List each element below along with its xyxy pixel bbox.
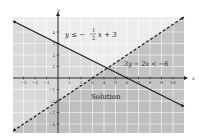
x-axis-label: x [192,75,195,81]
equation-2-label: 3y − 2x < −6 [124,60,168,68]
x-tick-label: 9 [160,80,163,85]
y-tick-label: 1 [52,64,55,69]
equation-1-lhs: y ≤ − [64,31,85,39]
equation-1-numerator: 1 [92,27,95,33]
inequality-graph: xy−3−2−112345678910−4−3−2−11234y ≤ −12x … [0,0,199,139]
y-axis-label: y [56,7,60,14]
x-tick-label: 8 [149,80,152,85]
y-tick-label: −4 [49,122,55,127]
x-tick-label: 4 [103,80,106,85]
x-tick-label: 2 [80,80,83,85]
equation-1-rhs: x + 3 [98,31,117,39]
x-tick-label: 1 [68,80,71,85]
x-tick-label: 6 [126,80,129,85]
x-tick-label: −1 [44,80,50,85]
y-tick-label: −1 [49,87,55,92]
x-tick-label: 10 [170,80,176,85]
y-tick-label: −3 [49,110,55,115]
x-tick-label: 5 [114,80,117,85]
x-axis-arrow-icon [184,76,188,80]
x-tick-label: −2 [32,80,38,85]
x-tick-label: 3 [91,80,94,85]
x-tick-label: −3 [21,80,27,85]
solution-label: Solution [91,93,121,101]
equation-1-denominator: 2 [92,35,95,41]
